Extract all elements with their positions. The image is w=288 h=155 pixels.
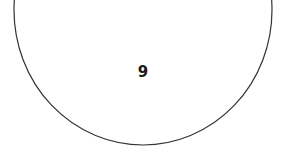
node-label: 9 [123,62,163,82]
